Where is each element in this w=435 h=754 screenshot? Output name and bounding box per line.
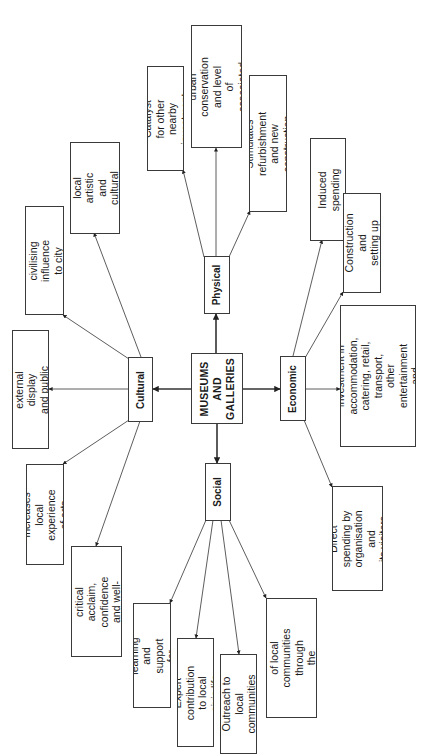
leaf-generates-external-display: Generates external display and public ar… <box>12 330 49 449</box>
hub-social: Social <box>205 463 231 521</box>
leaf-increases-label: Increases local experience of arts <box>26 489 64 540</box>
leaf-reaffirm-label: Reaffirmation of local communities throu… <box>266 627 317 689</box>
leaf-stimlocal-label: Stimulates local artistic and cultural l… <box>70 163 120 212</box>
leaf-promotes-label: Promotes urban conservation and level of… <box>191 57 242 117</box>
leaf-expert-label: Expert contribution to local civic life <box>177 665 214 719</box>
leaf-brings-critical-acclaim: Brings critical acclaim, confidence and … <box>71 546 122 657</box>
leaf-reaffirmation: Reaffirmation of local communities throu… <box>266 598 317 718</box>
arrow-social-learning <box>170 520 206 603</box>
leaf-direct-label: Direct spending by organisation and its … <box>332 510 383 567</box>
arrow-cultural-increases <box>63 420 129 464</box>
leaf-outreach-label: Outreach to local communities <box>220 675 257 734</box>
arrow-cultural-civilising <box>63 315 129 359</box>
leaf-acclaim-label: Brings critical acclaim, confidence and … <box>71 576 122 627</box>
hub-cultural: Cultural <box>128 357 153 422</box>
leaf-catalyst: Catalyst for other nearby investment <box>147 66 184 171</box>
hub-cultural-label: Cultural <box>135 371 147 409</box>
hub-physical: Physical <box>204 256 230 314</box>
leaf-stimulation-other-investment: Stimulation of other investment in accom… <box>340 305 416 447</box>
leaf-increases-local-experience: Increases local experience of arts <box>26 464 64 565</box>
leaf-stimulates-refurbishment: Stimulates refurbishment and new constru… <box>249 75 287 212</box>
leaf-outreach: Outreach to local communities <box>220 654 257 754</box>
arrow-physical-catalyst <box>183 170 204 257</box>
leaf-direct-spending: Direct spending by organisation and its … <box>332 486 383 591</box>
leaf-expert-contribution: Expert contribution to local civic life <box>177 638 214 747</box>
hub-physical-label: Physical <box>211 265 223 306</box>
leaf-refurb-label: Stimulates refurbishment and new constru… <box>249 111 287 175</box>
leaf-civilising-label: Adds civilising influence to city life <box>25 239 64 281</box>
leaf-stimulation-label: Stimulation of other investment in accom… <box>340 337 416 414</box>
arrow-economic-direct <box>304 420 332 487</box>
leaf-promotes-urban-conservation: Promotes urban conservation and level of… <box>191 25 242 148</box>
arrow-social-outreach <box>221 520 239 654</box>
arrow-cultural-acclaim <box>96 421 140 546</box>
hub-economic: Economic <box>280 356 306 421</box>
leaf-external-label: Generates external display and public ar… <box>12 365 49 414</box>
leaf-construction-setting-up: Construction and setting up <box>343 193 381 293</box>
arrow-economic-induced <box>293 240 322 356</box>
arrow-economic-construction <box>305 292 343 358</box>
arrow-social-reaffirm <box>229 520 266 598</box>
leaf-construction-label: Construction and setting up <box>343 214 381 273</box>
arrow-cultural-stimlocal <box>94 233 141 357</box>
leaf-induced-spending: Induced spending <box>310 138 346 241</box>
leaf-adds-civilising-influence: Adds civilising influence to city life <box>25 206 64 315</box>
leaf-individual-learning: Individual learning and support for educ… <box>133 603 171 708</box>
hub-social-label: Social <box>212 477 224 506</box>
hub-economic-label: Economic <box>287 365 299 413</box>
center-node-label: MUSEUMS AND GALLERIES <box>198 358 237 420</box>
leaf-stimulates-local-artistic: Stimulates local artistic and cultural l… <box>70 142 120 234</box>
leaf-induced-label: Induced spending <box>316 168 341 211</box>
leaf-catalyst-label: Catalyst for other nearby investment <box>147 93 184 144</box>
center-node-museums-and-galleries: MUSEUMS AND GALLERIES <box>191 353 243 424</box>
arrow-physical-refurb <box>229 211 250 257</box>
leaf-learning-label: Individual learning and support for educ… <box>133 633 171 679</box>
